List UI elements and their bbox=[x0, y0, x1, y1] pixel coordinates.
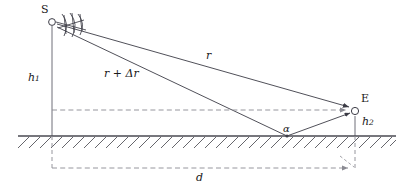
h2-sub: 2 bbox=[369, 118, 374, 127]
receiver-point-marker bbox=[351, 107, 358, 114]
h1-sub: 1 bbox=[35, 74, 40, 83]
reflected-ray-outgoing bbox=[287, 113, 350, 136]
direct-ray bbox=[57, 24, 349, 107]
reflected-path-label: r + Δr bbox=[104, 68, 139, 79]
diagram-canvas bbox=[0, 0, 402, 193]
source-point-marker bbox=[49, 19, 56, 26]
distance-dimension bbox=[52, 136, 355, 170]
receiver-label: E bbox=[361, 93, 369, 104]
direct-path-label: r bbox=[206, 50, 211, 61]
receiver-height-label: h2 bbox=[362, 116, 374, 127]
source-label: S bbox=[41, 4, 49, 15]
grazing-angle-label: α bbox=[283, 124, 290, 134]
reflection-point-marker bbox=[285, 134, 288, 137]
transmitter-height-label: h1 bbox=[28, 72, 40, 83]
propagation-diagram: S E h1 h2 r r + Δr α d bbox=[0, 0, 402, 193]
reflected-ray-incident bbox=[57, 27, 287, 136]
distance-label: d bbox=[196, 172, 203, 183]
ground-hatching bbox=[18, 137, 396, 148]
